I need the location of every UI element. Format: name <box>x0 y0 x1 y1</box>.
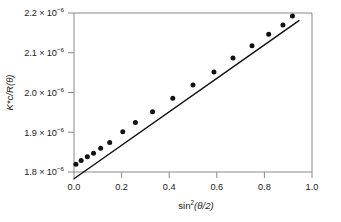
data-point <box>290 13 295 18</box>
data-point <box>170 96 175 101</box>
data-point <box>91 151 96 156</box>
x-tick-label: 0.2 <box>115 182 128 192</box>
data-point <box>133 120 138 125</box>
data-point <box>250 43 255 48</box>
data-point <box>230 56 235 61</box>
data-point <box>79 158 84 163</box>
data-point <box>266 32 271 37</box>
data-point <box>211 69 216 74</box>
zimm-plot-chart: 1.8×10−6 1.9×10−6 2.0×10−6 2.1×10−6 2.2×… <box>0 0 341 222</box>
data-point <box>73 162 78 167</box>
data-point <box>98 146 103 151</box>
data-point <box>150 109 155 114</box>
y-axis-title: K*c/R(θ) <box>4 74 15 110</box>
data-point <box>191 82 196 87</box>
data-point <box>107 140 112 145</box>
data-point <box>280 23 285 28</box>
x-tick-label: 0.8 <box>258 182 271 192</box>
x-tick-label: 1.0 <box>306 182 319 192</box>
x-axis-title: sin2(θ/2) <box>178 199 213 211</box>
x-tick-label: 0.6 <box>210 182 223 192</box>
data-point <box>85 154 90 159</box>
data-point <box>120 129 125 134</box>
x-tick-label: 0.4 <box>163 182 176 192</box>
figure-container: 1.8×10−6 1.9×10−6 2.0×10−6 2.1×10−6 2.2×… <box>0 0 341 222</box>
x-tick-label: 0.0 <box>68 182 81 192</box>
